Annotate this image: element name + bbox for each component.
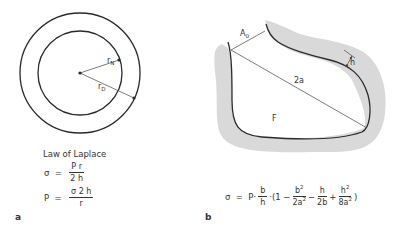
stress-formula: σ = P· bh ·(1 − b22a2 − h2b + h28a2 ) (225, 186, 357, 207)
area-label: A0 (240, 30, 249, 40)
panel-label-a: a (15, 212, 21, 222)
ventricle-shape (214, 20, 385, 152)
inner-radius-point (117, 58, 120, 61)
center-point (78, 71, 81, 74)
outer-radius-point (132, 96, 135, 99)
inner-radius-label: rN (107, 57, 114, 67)
region-label: F (272, 115, 277, 123)
outer-radius-line (80, 73, 134, 98)
equation-pressure: P = σ 2 hr (44, 187, 95, 208)
outer-radius-label: rD (98, 83, 106, 93)
equation-sigma: σ = P r2 h (44, 162, 86, 183)
law-title: Law of Laplace (43, 149, 106, 159)
concentric-circles (20, 13, 140, 133)
diameter-label: 2a (294, 77, 304, 85)
panel-label-b: b (205, 212, 211, 222)
thickness-label: h (350, 59, 355, 67)
